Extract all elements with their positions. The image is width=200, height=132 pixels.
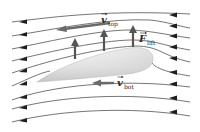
svg-text:top: top — [108, 20, 118, 28]
arrowhead-icon — [19, 20, 27, 25]
streamline-9 — [12, 110, 190, 122]
arrowhead-icon — [169, 82, 177, 87]
streamline-8 — [12, 96, 190, 109]
airfoil-diagram: v top F lift v bot — [0, 0, 200, 132]
v-bot-label: v bot — [117, 76, 134, 90]
v-bot-vector — [92, 80, 114, 87]
arrowhead-icon — [19, 81, 27, 86]
arrowhead-icon — [169, 34, 177, 39]
v-top-label: v top — [101, 13, 118, 28]
arrowhead-icon — [169, 70, 177, 75]
arrowhead-icon — [19, 95, 27, 100]
svg-text:v: v — [101, 14, 107, 25]
svg-text:lift: lift — [147, 39, 156, 46]
svg-text:F: F — [138, 33, 147, 44]
arrowhead-icon — [19, 32, 27, 37]
f-lift-label: F lift — [138, 32, 156, 46]
airfoil — [37, 48, 153, 82]
streamline-3 — [12, 30, 190, 49]
svg-text:bot: bot — [124, 83, 134, 90]
arrowhead-icon — [169, 45, 177, 50]
svg-text:v: v — [117, 77, 123, 88]
